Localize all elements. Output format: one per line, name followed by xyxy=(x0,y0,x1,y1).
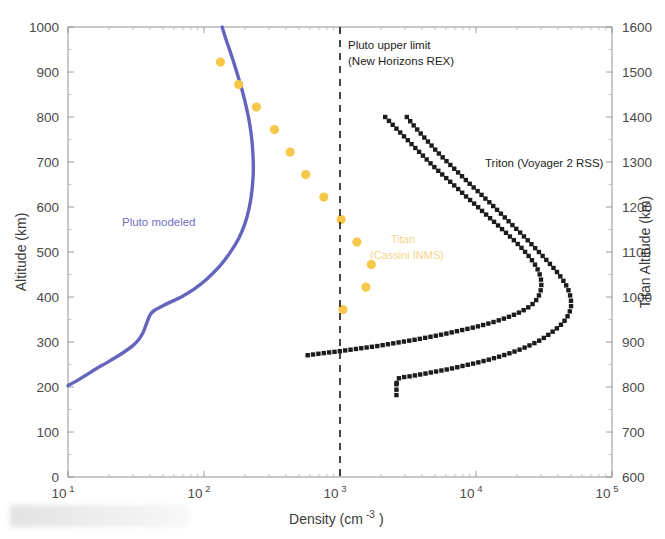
triton-data-point xyxy=(526,305,530,309)
triton-data-point xyxy=(425,157,429,161)
y-left-tick-label: 500 xyxy=(36,245,59,260)
x-axis-title-close: ) xyxy=(379,511,384,527)
triton-data-point xyxy=(561,279,565,283)
triton-data-point xyxy=(507,315,511,319)
triton-data-point xyxy=(380,343,384,347)
triton-data-point xyxy=(460,174,464,178)
x-tick-exponent: 2 xyxy=(205,483,210,494)
y-left-tick-label: 800 xyxy=(36,110,59,125)
triton-data-point xyxy=(568,293,572,297)
triton-data-point xyxy=(564,283,568,287)
triton-data-point xyxy=(530,258,534,262)
triton-data-point xyxy=(421,153,425,157)
triton-data-point xyxy=(468,198,472,202)
triton-data-point xyxy=(565,314,569,318)
titan-data-point xyxy=(252,103,261,112)
triton-data-point xyxy=(445,367,449,371)
triton-data-point xyxy=(535,267,539,271)
pluto-limit-label-line2: (New Horizons REX) xyxy=(348,55,454,67)
triton-data-point xyxy=(449,330,453,334)
triton-data-point xyxy=(448,163,452,167)
y-left-tick-label: 700 xyxy=(36,155,59,170)
triton-data-point xyxy=(502,316,506,320)
triton-data-point xyxy=(491,204,495,208)
triton-data-point xyxy=(542,336,546,340)
triton-data-point xyxy=(486,321,490,325)
triton-data-point xyxy=(518,230,522,234)
triton-data-point xyxy=(386,342,390,346)
caption-fragment xyxy=(10,505,190,527)
triton-data-point xyxy=(460,191,464,195)
triton-data-point xyxy=(569,299,573,303)
triton-stub-point xyxy=(394,393,398,397)
x-tick-label: 105 xyxy=(595,483,618,501)
triton-data-point xyxy=(436,169,440,173)
x-tick-mantissa: 10 xyxy=(323,486,338,501)
triton-data-point xyxy=(523,250,527,254)
triton-data-point xyxy=(432,165,436,169)
triton-data-point xyxy=(488,216,492,220)
triton-data-point xyxy=(548,262,552,266)
triton-stub-point xyxy=(394,382,398,386)
triton-data-point xyxy=(456,170,460,174)
titan-data-point xyxy=(337,215,346,224)
density-altitude-chart: 1011021031041050100200300400500600700800… xyxy=(0,0,665,539)
y-left-tick-label: 900 xyxy=(36,65,59,80)
triton-data-point xyxy=(348,347,352,351)
triton-data-point xyxy=(397,376,401,380)
x-axis-title-text: Density (cm xyxy=(289,511,363,527)
triton-data-point xyxy=(487,357,491,361)
triton-data-point xyxy=(517,347,521,351)
triton-data-point xyxy=(527,343,531,347)
triton-data-point xyxy=(555,326,559,330)
triton-data-point xyxy=(429,370,433,374)
triton-data-point xyxy=(456,187,460,191)
triton-data-point xyxy=(423,336,427,340)
x-tick-label: 101 xyxy=(51,483,74,501)
triton-data-point xyxy=(497,318,501,322)
x-tick-label: 102 xyxy=(187,483,210,501)
triton-data-point xyxy=(471,361,475,365)
x-tick-mantissa: 10 xyxy=(595,486,610,501)
triton-data-point xyxy=(322,351,326,355)
triton-data-point xyxy=(402,339,406,343)
triton-data-point xyxy=(467,182,471,186)
x-tick-exponent: 5 xyxy=(613,483,618,494)
triton-data-point xyxy=(398,130,402,134)
triton-data-point xyxy=(444,176,448,180)
triton-data-point xyxy=(562,319,566,323)
triton-data-point xyxy=(522,345,526,349)
triton-data-point xyxy=(475,189,479,193)
titan-data-point xyxy=(270,125,279,134)
triton-data-point xyxy=(500,227,504,231)
x-tick-mantissa: 10 xyxy=(51,486,66,501)
x-tick-exponent: 1 xyxy=(69,483,74,494)
triton-data-point xyxy=(481,359,485,363)
triton-data-point xyxy=(437,151,441,155)
y-right-tick-label: 1300 xyxy=(622,155,652,170)
triton-data-point xyxy=(407,338,411,342)
triton-data-point xyxy=(426,139,430,143)
triton-data-point xyxy=(516,242,520,246)
triton-data-point xyxy=(422,135,426,139)
triton-data-point xyxy=(512,238,516,242)
triton-data-point xyxy=(391,341,395,345)
triton-data-point xyxy=(423,371,427,375)
triton-data-point xyxy=(510,223,514,227)
figure-container: 1011021031041050100200300400500600700800… xyxy=(0,0,665,539)
triton-data-point xyxy=(484,212,488,216)
triton-data-point xyxy=(558,274,562,278)
triton-data-point xyxy=(503,215,507,219)
titan-data-point xyxy=(367,260,376,269)
triton-data-point xyxy=(412,338,416,342)
triton-data-point xyxy=(407,374,411,378)
y-right-tick-label: 600 xyxy=(622,470,645,485)
pluto-modeled-label: Pluto modeled xyxy=(122,216,196,228)
y-left-tick-label: 0 xyxy=(51,470,59,485)
triton-data-point xyxy=(364,345,368,349)
titan-label-line2: (Cassini INMS) xyxy=(370,249,444,261)
titan-label-line1: Titan xyxy=(391,233,415,245)
triton-data-point xyxy=(433,147,437,151)
triton-data-point xyxy=(476,360,480,364)
triton-data-point xyxy=(519,246,523,250)
